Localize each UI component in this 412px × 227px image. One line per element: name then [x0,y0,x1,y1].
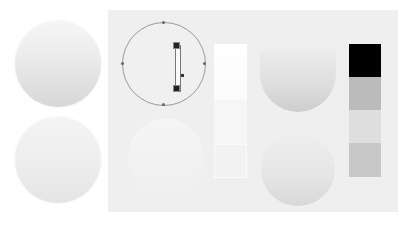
circle-handle-top[interactable] [162,21,165,24]
radial-gradient-editor-circle[interactable] [122,22,206,106]
swatch-mid[interactable] [349,143,381,177]
gradient-stop-strip-2[interactable] [214,100,247,144]
gradient-editor-panel [108,10,398,212]
gradient-start-handle[interactable] [173,42,180,49]
gradient-ball-preview-bottom [15,117,101,203]
gradient-end-handle[interactable] [173,85,180,92]
swatch-gray[interactable] [349,77,381,110]
circle-handle-left[interactable] [121,62,124,65]
swatch-black[interactable] [349,44,381,77]
gradient-stop-strip-3[interactable] [214,144,247,178]
ghost-sphere [128,118,204,198]
gradient-stop-strip-1[interactable] [214,44,247,100]
gradient-ball-preview-top [15,21,101,107]
sphere-preview-top [260,50,336,112]
circle-handle-bottom[interactable] [162,103,165,106]
gradient-midpoint-handle[interactable] [181,74,184,77]
swatch-light[interactable] [349,110,381,143]
sphere-preview-bottom [261,132,335,206]
circle-handle-right[interactable] [203,62,206,65]
